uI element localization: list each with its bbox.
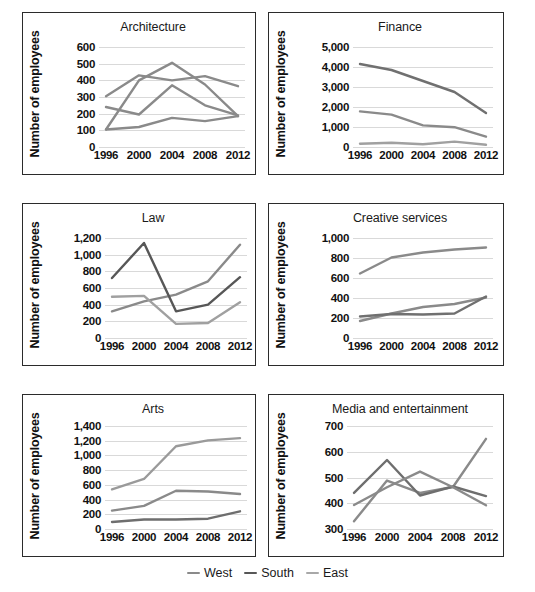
x-tick-label: 2012 <box>226 149 250 161</box>
gridline <box>99 147 245 148</box>
legend-line-icon-west <box>187 572 200 575</box>
gridline <box>347 529 493 530</box>
figure-legend: West South East <box>0 560 535 586</box>
x-tick-label: 2012 <box>474 531 498 543</box>
y-tick-label: 500 <box>77 58 99 70</box>
x-tick-label: 1996 <box>100 531 124 543</box>
chart-title-finance: Finance <box>269 20 503 34</box>
chart-panel-architecture: Architecture Number of employees 0100200… <box>22 12 256 175</box>
series-line-west <box>360 248 486 274</box>
y-tick-label: 300 <box>77 91 99 103</box>
legend-item-south: South <box>244 566 294 580</box>
series-layer <box>353 238 493 338</box>
x-tick-label: 2000 <box>127 149 151 161</box>
series-layer <box>347 426 493 529</box>
gridline <box>353 338 493 339</box>
y-tick-label: 2,000 <box>322 101 353 113</box>
y-tick-label: 400 <box>83 494 105 506</box>
chart-title-media-and-entertainment: Media and entertainment <box>269 402 503 416</box>
x-tick-label: 1996 <box>348 340 372 352</box>
x-tick-label: 2012 <box>474 340 498 352</box>
x-tick-label: 2008 <box>193 149 217 161</box>
x-tick-label: 2004 <box>164 531 188 543</box>
x-tick-label: 2000 <box>379 340 403 352</box>
y-tick-label: 200 <box>83 508 105 520</box>
x-tick-label: 2008 <box>196 531 220 543</box>
series-line-west <box>112 438 240 489</box>
chart-panel-law: Law Number of employees 02004006008001,0… <box>22 203 256 366</box>
y-tick-label: 1,000 <box>322 121 353 133</box>
series-line-south <box>360 111 486 136</box>
chart-panel-creative-services: Creative services Number of employees 02… <box>268 203 504 366</box>
y-tick-label: 1,200 <box>74 435 105 447</box>
y-tick-label: 600 <box>83 479 105 491</box>
y-axis-label-creative-services: Number of employees <box>271 204 291 365</box>
plot-area-finance: 01,0002,0003,0004,0005,00019962000200420… <box>353 47 493 147</box>
x-tick-label: 1996 <box>94 149 118 161</box>
y-tick-label: 5,000 <box>322 41 353 53</box>
x-tick-label: 2000 <box>132 531 156 543</box>
plot-area-law: 02004006008001,0001,20019962000200420082… <box>105 238 247 338</box>
series-line-east <box>354 472 486 506</box>
chart-title-architecture: Architecture <box>23 20 255 34</box>
y-tick-label: 800 <box>331 252 353 264</box>
series-line-south <box>112 243 240 311</box>
x-tick-label: 2012 <box>228 531 252 543</box>
x-tick-label: 2004 <box>411 149 435 161</box>
x-tick-label: 2004 <box>411 340 435 352</box>
y-tick-label: 600 <box>331 272 353 284</box>
series-layer <box>105 238 247 338</box>
y-axis-label-finance: Number of employees <box>271 13 291 174</box>
y-axis-label-arts: Number of employees <box>25 395 45 556</box>
x-tick-label: 2008 <box>442 149 466 161</box>
x-tick-label: 2000 <box>375 531 399 543</box>
legend-item-east: East <box>306 566 348 580</box>
plot-area-arts: 02004006008001,0001,2001,400199620002004… <box>105 426 247 529</box>
chart-panel-media-and-entertainment: Media and entertainment Number of employ… <box>268 394 504 557</box>
figure-root: Architecture Number of employees 0100200… <box>0 0 535 592</box>
series-line-west <box>354 439 486 521</box>
y-tick-label: 600 <box>325 446 347 458</box>
x-tick-label: 2004 <box>160 149 184 161</box>
chart-panel-arts: Arts Number of employees 02004006008001,… <box>22 394 256 557</box>
legend-item-west: West <box>187 566 232 580</box>
y-tick-label: 200 <box>77 108 99 120</box>
series-line-west <box>360 64 486 113</box>
series-line-east <box>360 142 486 145</box>
x-tick-label: 1996 <box>100 340 124 352</box>
chart-title-creative-services: Creative services <box>269 211 503 225</box>
y-tick-label: 100 <box>77 124 99 136</box>
series-layer <box>105 426 247 529</box>
y-tick-label: 700 <box>325 420 347 432</box>
y-tick-label: 3,000 <box>322 81 353 93</box>
y-tick-label: 400 <box>83 299 105 311</box>
y-tick-label: 800 <box>83 265 105 277</box>
plot-area-media-and-entertainment: 30040050060070019962000200420082012 <box>347 426 493 529</box>
series-layer <box>353 47 493 147</box>
y-tick-label: 1,000 <box>74 449 105 461</box>
x-tick-label: 2008 <box>196 340 220 352</box>
legend-label-south: South <box>261 566 294 580</box>
plot-area-architecture: 010020030040050060019962000200420082012 <box>99 47 245 147</box>
y-tick-label: 200 <box>83 315 105 327</box>
series-line-south <box>360 298 486 322</box>
x-tick-label: 2000 <box>132 340 156 352</box>
y-tick-label: 1,000 <box>74 249 105 261</box>
y-tick-label: 200 <box>331 312 353 324</box>
x-tick-label: 1996 <box>342 531 366 543</box>
y-axis-label-architecture: Number of employees <box>25 13 45 174</box>
y-tick-label: 500 <box>325 472 347 484</box>
y-axis-label-media-and-entertainment: Number of employees <box>271 395 291 556</box>
gridline <box>105 529 247 530</box>
chart-title-law: Law <box>23 211 255 225</box>
x-tick-label: 2012 <box>474 149 498 161</box>
y-tick-label: 1,200 <box>74 232 105 244</box>
y-axis-label-law: Number of employees <box>25 204 45 365</box>
y-tick-label: 800 <box>83 464 105 476</box>
gridline <box>105 338 247 339</box>
y-tick-label: 600 <box>77 41 99 53</box>
x-tick-label: 2012 <box>228 340 252 352</box>
y-tick-label: 400 <box>325 497 347 509</box>
y-tick-label: 600 <box>83 282 105 294</box>
chart-title-arts: Arts <box>23 402 255 416</box>
